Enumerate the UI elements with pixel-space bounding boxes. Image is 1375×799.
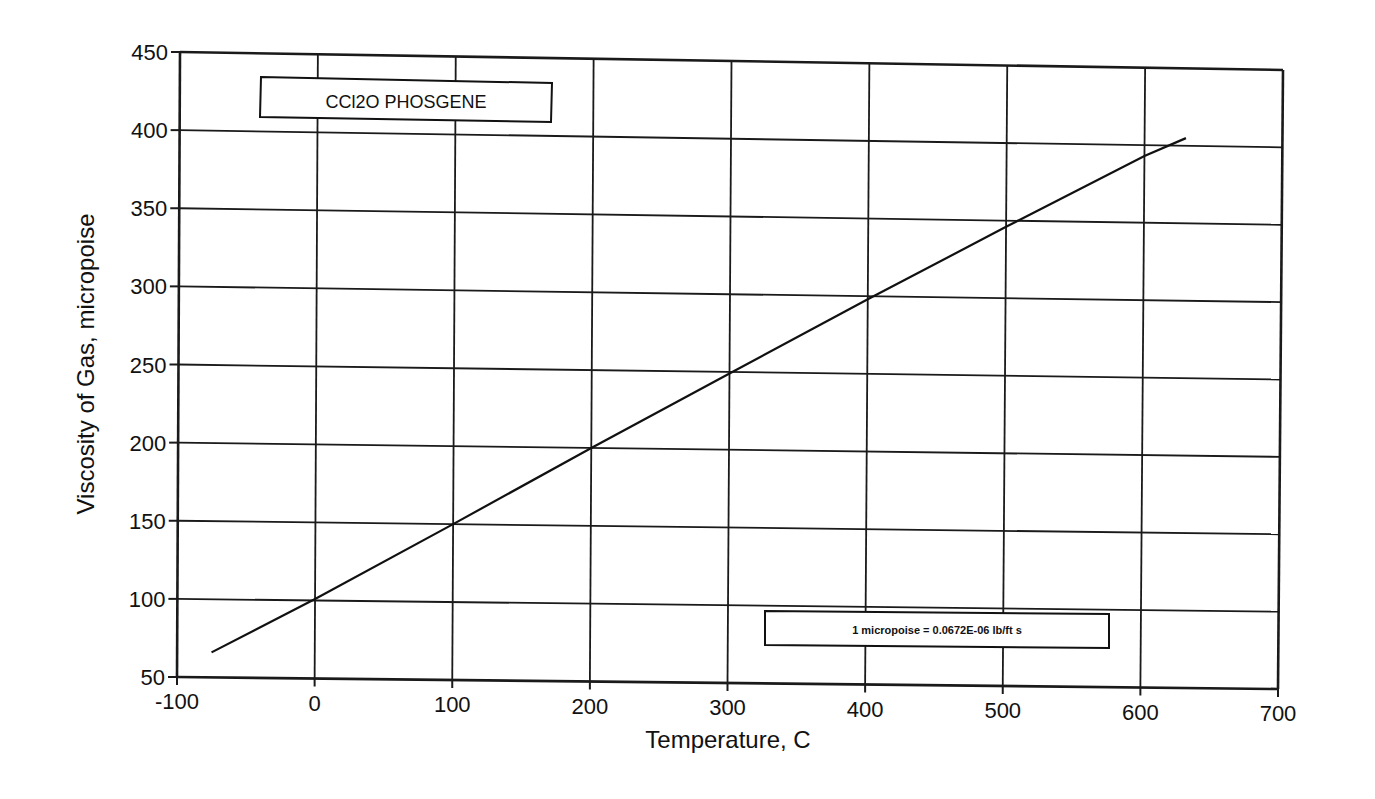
chart-canvas: CCl2O PHOSGENE 1 micropoise = 0.0672E-06…: [0, 0, 1375, 799]
x-tick-label: 500: [984, 698, 1021, 723]
x-tick-label: 200: [572, 694, 609, 719]
y-tick-label: 50: [141, 665, 165, 690]
y-tick-label: 300: [130, 274, 167, 299]
grid-lines: [177, 54, 1282, 687]
y-tick-label: 450: [131, 40, 168, 65]
x-tick-label: 400: [847, 697, 884, 722]
x-tick-label: 600: [1122, 700, 1159, 725]
x-tick-label: -100: [155, 689, 199, 714]
y-tick-label: 200: [129, 431, 166, 456]
unit-note-box: 1 micropoise = 0.0672E-06 lb/ft s: [765, 611, 1109, 648]
chart: CCl2O PHOSGENE 1 micropoise = 0.0672E-06…: [0, 0, 1375, 799]
y-axis-title: Viscosity of Gas, micropoise: [72, 214, 99, 515]
x-tick-label: 0: [309, 691, 321, 716]
y-tick-label: 100: [129, 587, 166, 612]
x-axis-title: Temperature, C: [645, 726, 810, 753]
x-tick-label: 300: [709, 695, 746, 720]
y-tick-label: 250: [130, 353, 167, 378]
y-tick-label: 150: [129, 509, 166, 534]
x-tick-label: 700: [1260, 701, 1297, 726]
y-tick-label: 350: [131, 196, 168, 221]
unit-conversion-note: 1 micropoise = 0.0672E-06 lb/ft s: [852, 624, 1022, 636]
title-box: CCl2O PHOSGENE: [260, 77, 552, 122]
x-tick-label: 100: [434, 692, 471, 717]
y-tick-label: 400: [131, 118, 168, 143]
chart-title: CCl2O PHOSGENE: [325, 92, 486, 112]
